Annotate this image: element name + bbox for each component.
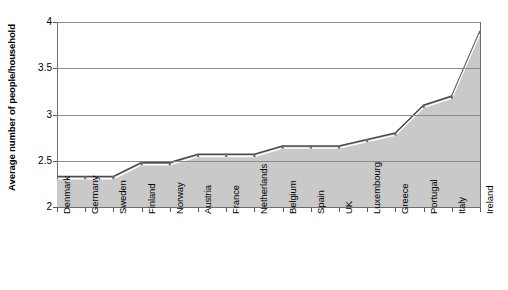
x-tick-mark	[57, 208, 58, 212]
data-point-marker	[479, 31, 480, 34]
y-axis-tick-labels: 22.533.54	[22, 0, 52, 290]
y-tick-mark	[53, 115, 57, 116]
x-tick-mark	[254, 208, 255, 212]
x-tick-mark	[142, 208, 143, 212]
y-tick-label: 2	[22, 202, 52, 212]
y-tick-label: 2.5	[22, 156, 52, 166]
data-point-marker	[451, 96, 453, 99]
x-tick-mark	[113, 208, 114, 212]
x-tick-label-text: Ireland	[484, 186, 495, 214]
y-tick-mark	[53, 22, 57, 23]
y-tick-label: 4	[22, 17, 52, 27]
x-axis-line	[57, 207, 481, 208]
y-axis-title: Average number of people/household	[0, 0, 22, 215]
data-point-marker	[423, 105, 425, 108]
data-point-marker	[366, 139, 368, 142]
x-tick-mark	[452, 208, 453, 212]
plot-right-border	[480, 22, 481, 208]
x-tick-mark	[198, 208, 199, 212]
chart-container: Average number of people/household 22.53…	[0, 0, 508, 290]
data-point-marker	[197, 154, 199, 157]
gridline	[57, 115, 480, 116]
x-tick-mark	[395, 208, 396, 212]
x-tick-mark	[283, 208, 284, 212]
data-point-marker	[282, 145, 284, 148]
x-tick-mark	[367, 208, 368, 212]
data-point-marker	[225, 154, 227, 157]
data-point-marker	[338, 145, 340, 148]
gridline	[57, 68, 480, 69]
x-tick-mark	[339, 208, 340, 212]
data-point-marker	[169, 162, 171, 165]
data-point-marker	[84, 176, 86, 179]
gridline	[57, 22, 480, 23]
y-tick-label: 3.5	[22, 63, 52, 73]
gridline	[57, 161, 480, 162]
y-axis-title-text: Average number of people/household	[6, 24, 17, 191]
x-tick-mark	[85, 208, 86, 212]
data-point-marker	[141, 162, 143, 165]
area-fill	[57, 31, 480, 207]
data-point-marker	[394, 133, 396, 136]
x-tick-mark	[170, 208, 171, 212]
data-point-marker	[253, 154, 255, 157]
data-point-marker	[112, 176, 114, 179]
data-point-marker	[310, 145, 312, 148]
data-point-marker	[57, 176, 58, 179]
x-tick-mark	[424, 208, 425, 212]
y-tick-mark	[53, 161, 57, 162]
x-tick-mark	[311, 208, 312, 212]
plot-area	[57, 22, 480, 207]
x-tick-mark	[480, 208, 481, 212]
y-tick-label: 3	[22, 110, 52, 120]
x-tick-mark	[226, 208, 227, 212]
y-tick-mark	[53, 68, 57, 69]
